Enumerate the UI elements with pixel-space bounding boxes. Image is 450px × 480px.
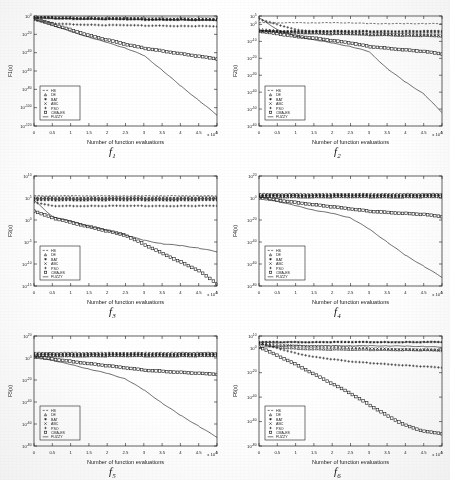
y-tick-label: 10-60 [247,123,257,129]
legend-label-bat: BAT [276,98,284,102]
x-tick-label: 0 [258,450,261,455]
x-tick-label: 4.5 [421,130,427,135]
x-tick-label: 0.5 [49,290,55,295]
legend[interactable]: HSDEBATABCPSOCMA-ESFUZZY [40,406,80,440]
svg-text:10-80: 10-80 [22,86,32,92]
x-tick-label: 3 [143,130,146,135]
x-tick-label: 2 [106,450,109,455]
legend[interactable]: HSDEBATABCPSOCMA-ESFUZZY [265,86,305,120]
svg-text:x 104: x 104 [432,291,442,297]
svg-text:1020: 1020 [23,333,32,339]
svg-text:10-40: 10-40 [22,399,32,405]
x-tick-label: 3.5 [384,290,390,295]
series-de [33,196,219,199]
legend-label-bat: BAT [51,98,59,102]
x-axis-multiplier: x 104 [432,131,442,137]
x-tick-label: 4 [404,130,407,135]
legend-label-abc: ABC [276,422,284,426]
x-tick-label: 3.5 [384,450,390,455]
x-tick-label: 2 [106,130,109,135]
x-tick-label: 0.5 [49,450,55,455]
x-tick-label: 2 [331,450,334,455]
y-tick-label: 10-20 [22,31,32,37]
svg-text:10-50: 10-50 [247,106,257,112]
x-tick-label: 2 [331,290,334,295]
x-tick-label: 2.5 [123,130,129,135]
y-tick-label: 10-60 [247,418,257,424]
svg-text:10-60: 10-60 [247,123,257,129]
y-axis-label: F2(x) [232,65,238,77]
x-tick-label: 1 [294,290,297,295]
y-tick-label: 100 [25,355,32,361]
svg-text:1010: 1010 [23,173,32,179]
legend[interactable]: HSDEBATABCPSOCMA-ESFUZZY [40,86,80,120]
svg-text:10-20: 10-20 [247,369,257,375]
legend-label-pso: PSO [51,267,59,271]
figure-panel-grid: 00.511.522.533.544.5510010-2010-4010-601… [0,0,450,480]
legend-label-hs: HS [51,249,57,253]
x-tick-label: 4.5 [196,450,202,455]
series-de [258,195,444,198]
svg-text:10-40: 10-40 [22,49,32,55]
svg-text:10-40: 10-40 [247,239,257,245]
panel-f5: 00.511.522.533.544.55102010010-2010-4010… [0,320,225,480]
x-tick-label: 2.5 [348,130,354,135]
y-axis-label: F4(x) [232,225,238,237]
legend[interactable]: HSDEBATABCPSOCMA-ESFUZZY [40,246,80,280]
x-tick-label: 2.5 [348,290,354,295]
series-de [33,354,219,357]
svg-text:100: 100 [25,355,32,361]
legend-label-hs: HS [276,409,282,413]
x-tick-label: 3 [143,290,146,295]
svg-text:10-30: 10-30 [247,72,257,78]
legend-label-fuzzy: FUZZY [276,435,288,439]
series-cma-es [33,17,219,60]
svg-text:x 104: x 104 [432,131,442,137]
panel-caption-f2: f2 [225,145,450,160]
panel-caption-index: 4 [337,312,341,320]
svg-text:10-80: 10-80 [22,443,32,449]
x-tick-label: 3 [368,450,371,455]
x-tick-label: 4.5 [196,130,202,135]
y-axis-label: F3(x) [7,225,13,237]
legend-label-pso: PSO [276,107,284,111]
legend-label-de: DE [51,93,57,97]
y-tick-label: 10-5 [24,239,32,245]
panel-caption-index: 6 [337,472,341,480]
x-tick-label: 3.5 [159,450,165,455]
svg-text:100: 100 [250,21,257,27]
legend[interactable]: HSDEBATABCPSOCMA-ESFUZZY [265,406,305,440]
x-axis-multiplier: x 104 [207,291,217,297]
y-axis-label: F5(x) [7,385,13,397]
x-tick-label: 1 [69,290,72,295]
legend-label-abc: ABC [51,422,59,426]
legend-label-abc: ABC [51,262,59,266]
x-tick-label: 4.5 [421,290,427,295]
x-tick-label: 1.5 [311,290,317,295]
legend-label-hs: HS [51,409,57,413]
legend-label-bat: BAT [51,418,59,422]
y-tick-label: 105 [25,195,32,201]
legend[interactable]: HSDEBATABCPSOCMA-ESFUZZY [265,246,305,280]
y-tick-label: 1020 [23,333,32,339]
y-tick-label: 10-40 [247,239,257,245]
x-tick-label: 1 [69,130,72,135]
legend-label-abc: ABC [276,102,284,106]
panel-caption-index: 1 [112,152,116,160]
svg-text:x 104: x 104 [207,131,217,137]
x-tick-label: 4 [179,130,182,135]
panel-f2: 00.511.522.533.544.5510510010-1010-2010-… [225,0,450,160]
x-tick-label: 2 [331,130,334,135]
panel-f1: 00.511.522.533.544.5510010-2010-4010-601… [0,0,225,160]
x-tick-label: 0 [33,290,36,295]
x-tick-label: 2 [106,290,109,295]
svg-text:x 104: x 104 [207,451,217,457]
legend-label-de: DE [51,253,57,257]
y-tick-label: 10-80 [22,86,32,92]
series-pso [258,18,444,34]
y-tick-label: 100 [25,13,32,19]
x-tick-label: 1.5 [311,450,317,455]
x-tick-label: 0 [33,130,36,135]
x-tick-label: 2.5 [123,290,129,295]
plot-f6: 00.511.522.533.544.55101010010-2010-4010… [225,320,450,480]
